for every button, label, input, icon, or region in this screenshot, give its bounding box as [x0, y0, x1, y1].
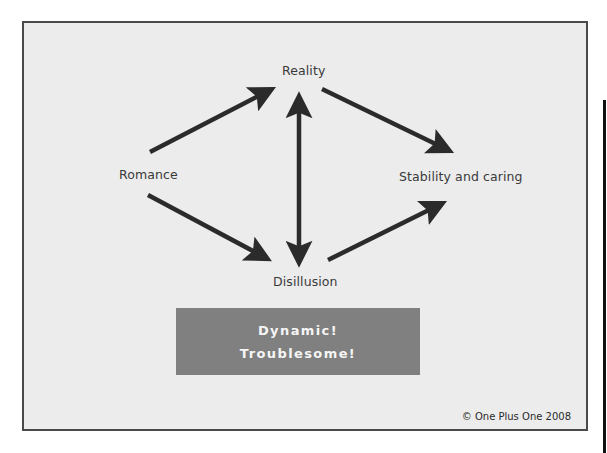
banner-line-troublesome: Troublesome!	[240, 346, 356, 361]
arrow-reality-to-stability	[322, 89, 448, 150]
arrow-disillusion-to-stability	[328, 204, 441, 260]
copyright-notice: © One Plus One 2008	[462, 411, 571, 422]
node-stability-and-caring: Stability and caring	[399, 169, 523, 184]
node-romance: Romance	[119, 167, 178, 182]
dynamic-troublesome-banner: Dynamic! Troublesome!	[176, 308, 420, 375]
banner-line-dynamic: Dynamic!	[258, 323, 338, 338]
arrow-romance-to-reality	[150, 90, 270, 152]
node-disillusion: Disillusion	[273, 274, 338, 289]
node-reality: Reality	[282, 63, 325, 78]
arrow-romance-to-disillusion	[148, 195, 266, 258]
